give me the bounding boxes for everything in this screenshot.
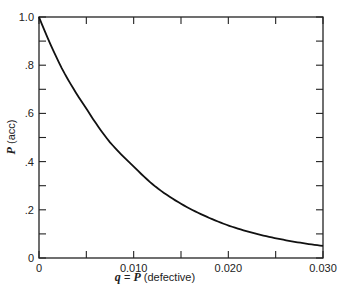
y-tick-labels: 0.2.4.6.81.0 [19,11,34,264]
axis-ticks [39,17,323,258]
svg-text:0.030: 0.030 [309,262,337,274]
oc-curve-line [39,17,323,246]
svg-text:0.020: 0.020 [215,262,243,274]
svg-text:.2: .2 [25,204,34,216]
plot-frame [39,17,323,258]
svg-text:1.0: 1.0 [19,11,34,23]
svg-text:.4: .4 [25,156,34,168]
y-axis-title: P (acc) [4,120,18,155]
oc-curve-chart: 0.2.4.6.81.0 00.0100.0200.030 P (acc) q … [0,0,347,298]
x-axis-title: q = P (defective) [115,270,195,284]
svg-text:0: 0 [36,262,42,274]
svg-text:0: 0 [28,252,34,264]
svg-text:.6: .6 [25,107,34,119]
svg-text:.8: .8 [25,59,34,71]
